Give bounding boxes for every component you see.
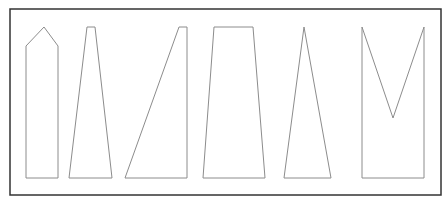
shape-pentagon-arrow [26, 27, 58, 178]
diagram-canvas [0, 0, 448, 201]
shape-wide-trapezoid [203, 27, 265, 178]
shapes-group [26, 27, 424, 178]
shape-right-trapezoid-slanted [125, 27, 187, 178]
shape-notched-rectangle [362, 27, 424, 178]
shape-narrow-trapezoid [69, 27, 112, 178]
outer-frame [10, 9, 441, 195]
shape-tall-triangle [284, 27, 331, 178]
